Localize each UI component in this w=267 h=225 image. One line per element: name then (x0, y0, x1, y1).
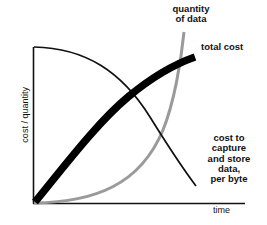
chart-figure: quantity of data total cost cost to capt… (0, 0, 267, 225)
annotation-total-cost: total cost (201, 42, 243, 52)
x-axis-label: time (213, 206, 230, 216)
chart-canvas (0, 0, 267, 225)
y-axis-label: cost / quantity (21, 72, 31, 158)
annotation-cost-to-capture: cost to capture and store data, per byte (196, 133, 262, 184)
curve-total-cost (35, 57, 195, 202)
annotation-quantity-of-data: quantity of data (160, 4, 222, 25)
